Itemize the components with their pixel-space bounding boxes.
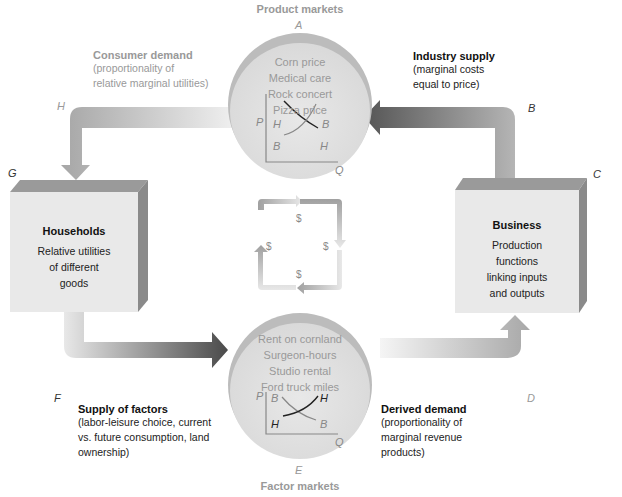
- factor-market-item: Studio rental: [240, 363, 360, 379]
- factor-graph-x-axis: Q: [335, 436, 344, 448]
- factor-graph-y-axis: P: [256, 390, 263, 402]
- product-markets-items: Corn price Medical care Rock concert Piz…: [240, 54, 360, 118]
- households-line: goods: [10, 275, 138, 291]
- derived-demand-line: marginal revenue: [381, 430, 467, 445]
- factor-markets-items: Rent on cornland Surgeon-hours Studio re…: [240, 331, 360, 395]
- industry-supply-arrow: [364, 100, 515, 190]
- product-curve-label: H: [273, 118, 281, 130]
- product-graph-x-axis: Q: [335, 164, 344, 176]
- supply-of-factors-line: (labor-leisure choice, current: [78, 415, 211, 430]
- supply-of-factors-line: ownership): [78, 445, 211, 460]
- derived-demand-title: Derived demand: [381, 403, 467, 415]
- households-letter: G: [8, 167, 17, 179]
- factor-markets-letter: E: [295, 464, 302, 476]
- business-line: linking inputs: [455, 269, 579, 285]
- business-letter: C: [593, 168, 601, 180]
- factor-curve-label: H: [320, 392, 328, 404]
- product-markets-title: Product markets: [220, 3, 380, 15]
- supply-of-factors-letter: F: [54, 392, 61, 404]
- product-curve-label: B: [273, 140, 280, 152]
- product-curve-label: B: [322, 118, 329, 130]
- consumer-demand-title: Consumer demand: [93, 49, 209, 61]
- consumer-demand-line: relative marginal utilities): [93, 76, 209, 91]
- product-market-item: Rock concert: [240, 86, 360, 102]
- consumer-demand-letter: H: [57, 100, 65, 112]
- supply-of-factors-label: Supply of factors (labor-leisure choice,…: [78, 403, 211, 460]
- product-market-item: Medical care: [240, 70, 360, 86]
- industry-supply-letter: B: [528, 102, 535, 114]
- factor-curve-label: H: [271, 418, 279, 430]
- factor-curve-label: B: [271, 392, 278, 404]
- supply-of-factors-line: vs. future consumption, land: [78, 430, 211, 445]
- households-line: of different: [10, 259, 138, 275]
- households-content: Households Relative utilities of differe…: [10, 223, 138, 291]
- derived-demand-line: products): [381, 445, 467, 460]
- dollar-icon: $: [323, 241, 329, 252]
- factor-market-item: Surgeon-hours: [240, 347, 360, 363]
- industry-supply-line: equal to price): [413, 77, 495, 92]
- business-content: Business Production functions linking in…: [455, 217, 579, 301]
- business-title: Business: [455, 217, 579, 233]
- industry-supply-label: Industry supply (marginal costs equal to…: [413, 50, 495, 92]
- dollar-icon: $: [296, 269, 302, 280]
- product-market-item: Corn price: [240, 54, 360, 70]
- consumer-demand-label: Consumer demand (proportionality of rela…: [93, 49, 209, 91]
- derived-demand-label: Derived demand (proportionality of margi…: [381, 403, 467, 460]
- households-line: Relative utilities: [10, 243, 138, 259]
- product-curve-label: H: [320, 140, 328, 152]
- households-title: Households: [10, 223, 138, 239]
- factor-curve-label: B: [320, 418, 327, 430]
- consumer-demand-line: (proportionality of: [93, 61, 209, 76]
- supply-of-factors-title: Supply of factors: [78, 403, 211, 415]
- consumer-demand-arrow: [61, 107, 240, 180]
- industry-supply-line: (marginal costs: [413, 62, 495, 77]
- factor-market-item: Rent on cornland: [240, 331, 360, 347]
- factor-markets-title: Factor markets: [220, 480, 380, 492]
- derived-demand-arrow: [380, 315, 530, 358]
- product-graph-y-axis: P: [256, 116, 263, 128]
- derived-demand-line: (proportionality of: [381, 415, 467, 430]
- product-markets-letter: A: [295, 19, 302, 31]
- derived-demand-letter: D: [527, 392, 535, 404]
- dollar-icon: $: [296, 213, 302, 224]
- business-line: and outputs: [455, 285, 579, 301]
- business-line: functions: [455, 253, 579, 269]
- industry-supply-title: Industry supply: [413, 50, 495, 62]
- business-line: Production: [455, 237, 579, 253]
- dollar-icon: $: [266, 241, 272, 252]
